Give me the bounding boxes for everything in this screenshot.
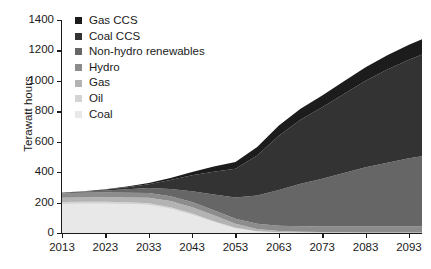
legend-item-coal[interactable]: Coal bbox=[75, 107, 205, 123]
x-tick-mark bbox=[366, 234, 367, 238]
y-axis-tick: 0 bbox=[0, 233, 61, 234]
legend-item-gas[interactable]: Gas bbox=[75, 75, 205, 91]
legend-swatch-icon bbox=[75, 17, 82, 24]
legend-label: Oil bbox=[89, 93, 103, 105]
x-tick-mark bbox=[322, 234, 323, 238]
x-tick-label: 2013 bbox=[49, 241, 75, 253]
x-tick-mark bbox=[279, 234, 280, 238]
legend-swatch-icon bbox=[75, 95, 82, 102]
y-axis-tick: 1000 bbox=[0, 81, 61, 82]
legend-item-non-hydro-renewables[interactable]: Non-hydro renewables bbox=[75, 44, 205, 60]
y-axis-title: Terawatt hours bbox=[22, 44, 34, 184]
legend-swatch-icon bbox=[75, 111, 82, 118]
y-tick-label: 1400 bbox=[28, 13, 54, 25]
x-tick-label: 2083 bbox=[353, 241, 379, 253]
legend-swatch-icon bbox=[75, 64, 82, 71]
x-tick-label: 2053 bbox=[223, 241, 249, 253]
y-axis-tick: 600 bbox=[0, 142, 61, 143]
y-tick-label: 1000 bbox=[28, 74, 54, 86]
legend-item-hydro[interactable]: Hydro bbox=[75, 60, 205, 76]
stacked-area-chart: Terawatt hours 1400120010008006004002000… bbox=[0, 0, 431, 269]
x-tick-mark bbox=[192, 234, 193, 238]
y-axis-tick: 200 bbox=[0, 203, 61, 204]
y-tick-label: 1200 bbox=[28, 43, 54, 55]
x-tick-mark bbox=[235, 234, 236, 238]
y-tick-label: 400 bbox=[35, 165, 54, 177]
legend-swatch-icon bbox=[75, 48, 82, 55]
legend-swatch-icon bbox=[75, 80, 82, 87]
legend-label: Coal CCS bbox=[89, 31, 140, 43]
legend-label: Gas bbox=[89, 77, 110, 89]
x-tick-label: 2093 bbox=[396, 241, 422, 253]
y-tick-label: 200 bbox=[35, 196, 54, 208]
y-tick-label: 0 bbox=[48, 226, 54, 238]
legend-swatch-icon bbox=[75, 33, 82, 40]
x-tick-label: 2043 bbox=[179, 241, 205, 253]
y-axis-tick: 1200 bbox=[0, 50, 61, 51]
y-axis-tick: 400 bbox=[0, 172, 61, 173]
y-tick-label: 600 bbox=[35, 135, 54, 147]
chart-legend: Gas CCSCoal CCSNon-hydro renewablesHydro… bbox=[75, 13, 205, 122]
x-tick-label: 2063 bbox=[266, 241, 292, 253]
legend-item-coal-ccs[interactable]: Coal CCS bbox=[75, 29, 205, 45]
y-axis-tick: 800 bbox=[0, 111, 61, 112]
x-tick-mark bbox=[149, 234, 150, 238]
legend-item-gas-ccs[interactable]: Gas CCS bbox=[75, 13, 205, 29]
x-tick-label: 2033 bbox=[136, 241, 162, 253]
x-tick-mark bbox=[105, 234, 106, 238]
y-axis-tick: 1400 bbox=[0, 20, 61, 21]
x-axis-line bbox=[61, 233, 422, 234]
legend-label: Hydro bbox=[89, 62, 120, 74]
x-tick-mark bbox=[62, 234, 63, 238]
y-tick-label: 800 bbox=[35, 104, 54, 116]
legend-label: Non-hydro renewables bbox=[89, 46, 205, 58]
x-tick-mark bbox=[409, 234, 410, 238]
legend-label: Gas CCS bbox=[89, 15, 138, 27]
legend-label: Coal bbox=[89, 109, 113, 121]
x-tick-label: 2023 bbox=[93, 241, 119, 253]
x-tick-label: 2073 bbox=[309, 241, 335, 253]
legend-item-oil[interactable]: Oil bbox=[75, 91, 205, 107]
